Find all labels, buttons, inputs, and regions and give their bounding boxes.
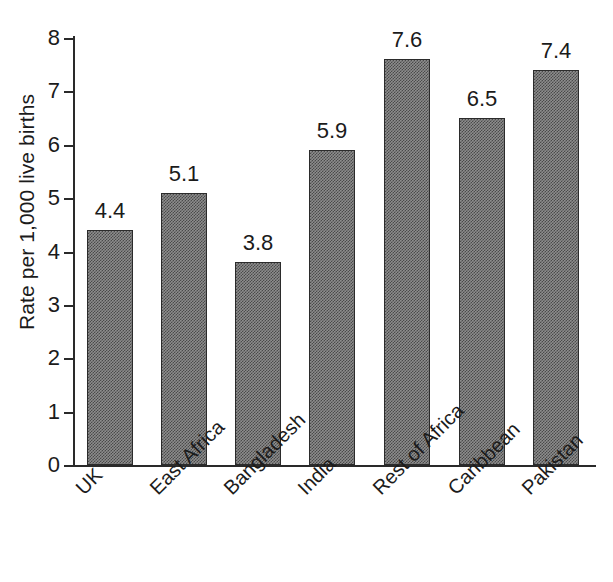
bar [87,230,133,465]
y-tick-label: 1 [30,401,60,423]
y-tick-label: 2 [30,347,60,369]
bar-value-label: 4.4 [73,200,147,222]
y-tick-label: 5 [30,187,60,209]
y-tick-mark [64,252,73,254]
bar-value-label: 7.6 [370,29,444,51]
y-tick-label: 3 [30,294,60,316]
y-tick-label: 0 [30,454,60,476]
y-tick-label: 6 [30,134,60,156]
bar-value-label: 7.4 [519,40,593,62]
y-axis-line [73,36,75,467]
y-tick-mark [64,358,73,360]
x-tick-label: India [294,453,339,498]
y-tick-label: 7 [30,80,60,102]
bar [384,59,430,465]
y-tick-mark [64,305,73,307]
page-caption-cutoff [50,569,570,579]
bar-value-label: 6.5 [445,88,519,110]
y-tick-mark [64,412,73,414]
y-tick-mark [64,198,73,200]
y-tick-mark [64,145,73,147]
y-tick-label: 8 [30,27,60,49]
bar [309,150,355,465]
bar-value-label: 5.9 [295,120,369,142]
y-tick-mark [64,91,73,93]
bar [533,70,579,465]
y-tick-mark [64,38,73,40]
bar [161,193,207,465]
bar-value-label: 5.1 [147,163,221,185]
bar-value-label: 3.8 [221,232,295,254]
y-tick-label: 4 [30,241,60,263]
y-tick-mark [64,465,73,467]
bar-chart: Rate per 1,000 live births 876543210 4.4… [0,0,613,582]
x-tick-label: UK [72,464,106,498]
